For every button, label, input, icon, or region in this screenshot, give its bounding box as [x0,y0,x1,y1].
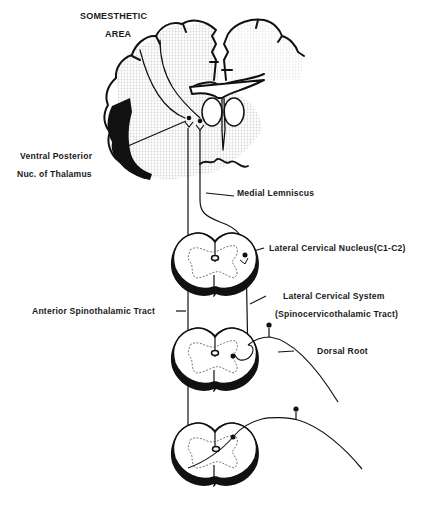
diagram-canvas: SOMESTHETIC AREA Ventral Posterior Nuc. … [0,0,440,509]
spinal-cord-section-upper [171,232,259,297]
spinal-cord-section-lower [171,419,262,487]
brain-coronal-section [104,20,305,180]
label-anterior-spinothalamic-tract: Anterior Spinothalamic Tract [32,306,155,316]
label-somesthetic-area-line2: AREA [105,29,131,39]
dorsal-root-middle [248,322,338,402]
pathway-diagram [0,0,440,509]
dorsal-root-lower [262,406,362,469]
spinal-cord-section-middle [171,327,259,392]
label-medial-lemniscus: Medial Lemniscus [237,188,314,198]
label-spinocervicothalamic-tract: (Spinocervicothalamic Tract) [275,309,398,319]
label-dorsal-root: Dorsal Root [317,346,368,356]
label-ventral-posterior: Ventral Posterior [20,151,92,161]
label-somesthetic-area-line1: SOMESTHETIC [80,11,147,21]
label-nuc-of-thalamus: Nuc. of Thalamus [17,169,92,179]
label-lateral-cervical-nucleus: Lateral Cervical Nucleus(C1-C2) [269,243,406,253]
label-lateral-cervical-system: Lateral Cervical System [283,291,385,301]
